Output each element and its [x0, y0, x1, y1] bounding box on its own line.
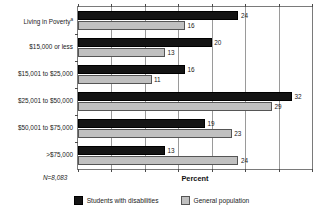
group-separator-tick [75, 115, 78, 116]
bar-general-population [78, 48, 165, 57]
bar-value-label: 20 [214, 38, 221, 47]
chart-legend: Students with disabilities General popul… [0, 196, 323, 205]
x-axis-title: Percent [77, 174, 313, 183]
category-label-3: $15,001 to $25,000 [0, 70, 73, 77]
bar-chart-figure: Living in Povertya$15,000 or less$15,001… [0, 0, 323, 216]
category-label-5: $50,001 to $75,000 [0, 124, 73, 131]
category-axis-labels: Living in Povertya$15,000 or less$15,001… [0, 6, 76, 170]
bar-students-with-disabilities [78, 38, 212, 47]
bar-value-label: 13 [167, 146, 174, 155]
footnote-marker: a [70, 17, 73, 22]
axis-tick [145, 169, 146, 172]
bar-students-with-disabilities [78, 65, 185, 74]
clipped-top-text [8, 0, 188, 4]
bar-group: 2013 [78, 34, 312, 61]
bar-students-with-disabilities [78, 92, 292, 101]
bar-group: 1324 [78, 142, 312, 169]
bar-students-with-disabilities [78, 119, 205, 128]
bar-students-with-disabilities [78, 11, 238, 20]
axis-tick [312, 169, 313, 172]
bar-value-label: 16 [187, 21, 194, 30]
plot-wrapper: Living in Povertya$15,000 or less$15,001… [0, 6, 323, 170]
bar-general-population [78, 21, 185, 30]
bar-general-population [78, 75, 152, 84]
bar-value-label: 16 [187, 65, 194, 74]
bar-group: 3229 [78, 88, 312, 115]
bar-general-population [78, 156, 238, 165]
bar-general-population [78, 129, 232, 138]
legend-item-general-population: General population [181, 196, 250, 205]
bar-students-with-disabilities [78, 146, 165, 155]
axis-tick [178, 169, 179, 172]
bar-value-label: 24 [241, 11, 248, 20]
sample-size-text: N=8,083 [43, 174, 67, 181]
bar-general-population [78, 102, 272, 111]
axis-tick [312, 4, 313, 7]
category-label-4: $25,001 to $50,000 [0, 97, 73, 104]
legend-item-students-with-disabilities: Students with disabilities [74, 196, 159, 205]
legend-swatch-icon-general-population [181, 196, 190, 205]
axis-tick [111, 169, 112, 172]
group-separator-tick [75, 88, 78, 89]
category-label-6: >$75,000 [0, 151, 73, 158]
bar-value-label: 24 [241, 156, 248, 165]
bar-group: 1611 [78, 61, 312, 88]
axis-tick [78, 169, 79, 172]
legend-label-students-with-disabilities: Students with disabilities [87, 197, 159, 204]
category-label-2: $15,000 or less [0, 43, 73, 50]
axis-tick [279, 169, 280, 172]
bar-group: 1923 [78, 115, 312, 142]
bar-group: 2416 [78, 7, 312, 34]
bar-value-label: 19 [208, 119, 215, 128]
category-label-1: Living in Povertya [0, 16, 73, 25]
group-separator-tick [75, 61, 78, 62]
bar-value-label: 13 [167, 48, 174, 57]
sample-size-note: N=8,083 [43, 174, 67, 181]
plot-area: 241620131611322919231324 [77, 6, 313, 170]
axis-tick [245, 169, 246, 172]
legend-label-general-population: General population [194, 197, 250, 204]
bar-value-label: 23 [234, 129, 241, 138]
group-separator-tick [75, 34, 78, 35]
bar-value-label: 29 [274, 102, 281, 111]
bar-value-label: 11 [154, 75, 161, 84]
axis-tick [212, 169, 213, 172]
bar-value-label: 32 [294, 92, 301, 101]
group-separator-tick [75, 142, 78, 143]
legend-swatch-icon-students-with-disabilities [74, 196, 83, 205]
